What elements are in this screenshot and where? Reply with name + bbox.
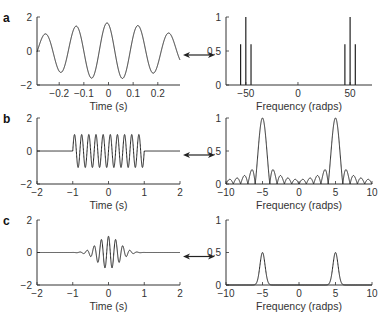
x-tick-label: −0.1 — [74, 88, 94, 99]
panel-a: a−202−0.2−0.100.10.2Time (s)00.51−50050F… — [3, 11, 372, 112]
x-tick-label: −5 — [257, 288, 269, 299]
spectrum-line — [226, 253, 372, 286]
x-tick-label: −5 — [257, 187, 269, 198]
time-signal-line — [37, 236, 180, 268]
x-tick-label: 0 — [296, 288, 302, 299]
x-axis-label: Frequency (radps) — [256, 100, 342, 112]
frequency-domain-plot: 00.51−10−50510Frequency (radps) — [207, 215, 378, 313]
y-tick-label: 2 — [26, 113, 32, 124]
time-signal-line — [37, 135, 180, 168]
x-tick-label: 10 — [366, 288, 378, 299]
fourier-figure: a−202−0.2−0.100.10.2Time (s)00.51−50050F… — [0, 0, 384, 330]
frequency-domain-plot: 00.51−50050Frequency (radps) — [207, 12, 372, 113]
y-tick-label: 0 — [26, 146, 32, 157]
x-tick-label: 0.1 — [126, 88, 140, 99]
panel-b: b−202−2−1012Time (s)00.51−10−50510Freque… — [3, 112, 378, 211]
x-tick-label: 0.2 — [151, 88, 165, 99]
y-tick-label: 0 — [26, 247, 32, 258]
x-tick-label: 2 — [177, 288, 183, 299]
y-tick-label: 1 — [215, 12, 221, 23]
x-tick-label: 5 — [333, 187, 339, 198]
x-tick-label: −1 — [67, 288, 79, 299]
x-tick-label: −0.2 — [49, 88, 69, 99]
y-tick-label: 2 — [26, 215, 32, 226]
frequency-domain-plot: 00.51−10−50510Frequency (radps) — [207, 113, 378, 212]
x-tick-label: 1 — [141, 187, 147, 198]
x-axis-label: Time (s) — [89, 100, 127, 112]
x-tick-label: 0 — [106, 88, 112, 99]
x-tick-label: 2 — [177, 187, 183, 198]
x-axis-label: Frequency (radps) — [256, 300, 342, 312]
x-tick-label: 0 — [106, 288, 112, 299]
x-tick-label: −2 — [31, 187, 43, 198]
x-tick-label: −1 — [67, 187, 79, 198]
time-signal-line — [37, 23, 180, 78]
x-tick-label: 0 — [106, 187, 112, 198]
y-tick-label: 1 — [215, 215, 221, 226]
time-domain-plot: −202−0.2−0.100.10.2Time (s) — [21, 12, 180, 113]
x-tick-label: 1 — [141, 288, 147, 299]
x-tick-label: 50 — [345, 88, 357, 99]
x-tick-label: 10 — [366, 187, 378, 198]
time-domain-plot: −202−2−1012Time (s) — [21, 113, 184, 212]
x-tick-label: −10 — [218, 288, 235, 299]
x-axis-label: Time (s) — [89, 300, 127, 312]
time-domain-plot: −202−2−1012Time (s) — [21, 215, 184, 313]
x-tick-label: 0 — [296, 187, 302, 198]
x-tick-label: 0 — [295, 88, 301, 99]
y-tick-label: 1 — [215, 113, 221, 124]
x-tick-label: −2 — [31, 288, 43, 299]
spectrum-line — [226, 118, 372, 184]
y-tick-label: −2 — [21, 80, 33, 91]
panel-letter: c — [3, 214, 10, 228]
x-axis-label: Time (s) — [89, 199, 127, 211]
x-tick-label: −50 — [237, 88, 254, 99]
y-tick-label: 0 — [215, 80, 221, 91]
y-tick-label: 2 — [26, 12, 32, 23]
x-tick-label: 5 — [333, 288, 339, 299]
panel-letter: b — [3, 112, 10, 126]
y-tick-label: 0 — [26, 46, 32, 57]
x-tick-label: −10 — [218, 187, 235, 198]
panel-c: c−202−2−1012Time (s)00.51−10−50510Freque… — [3, 214, 378, 312]
x-axis-label: Frequency (radps) — [256, 199, 342, 211]
panel-letter: a — [3, 11, 10, 25]
